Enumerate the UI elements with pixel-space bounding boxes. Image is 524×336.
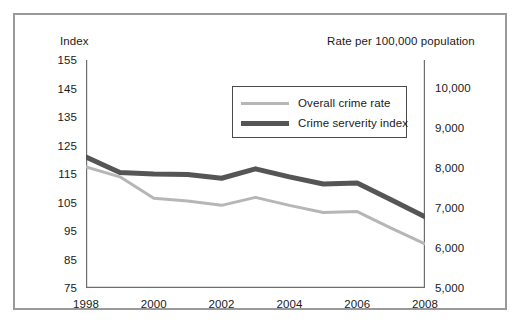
y2-tick-label: 9,000	[435, 122, 464, 134]
x-tick-label: 2004	[276, 298, 302, 310]
y-tick-label: 85	[64, 254, 77, 266]
legend-line-icon-overall-crime-rate	[241, 102, 289, 105]
x-tick-label: 1998	[73, 298, 99, 310]
series-line-overall-crime-rate	[86, 167, 425, 244]
y-tick-label: 145	[58, 83, 78, 95]
y2-tick-label: 10,000	[435, 82, 471, 94]
legend-entry-overall-crime-rate: Overall crime rate	[241, 95, 391, 111]
left-axis-title: Index	[60, 35, 89, 47]
chart-legend: Overall crime rate Crime serverity index	[232, 86, 407, 138]
x-tick-label: 2002	[209, 298, 235, 310]
y2-tick-label: 8,000	[435, 162, 464, 174]
x-tick-label: 2000	[141, 298, 167, 310]
legend-entry-crime-severity-index: Crime serverity index	[241, 115, 408, 131]
y-tick-label: 75	[64, 282, 77, 294]
y2-tick-label: 6,000	[435, 242, 464, 254]
x-tick-label: 2008	[412, 298, 438, 310]
y2-tick-label: 7,000	[435, 202, 464, 214]
y2-tick-label: 5,000	[435, 282, 464, 294]
y-tick-label: 155	[58, 54, 78, 66]
legend-label-overall-crime-rate: Overall crime rate	[298, 97, 391, 109]
y-tick-label: 95	[64, 225, 77, 237]
y-tick-label: 125	[58, 140, 78, 152]
legend-line-icon-crime-severity-index	[241, 121, 289, 126]
y-tick-label: 135	[58, 111, 78, 123]
x-tick-label: 2006	[344, 298, 370, 310]
y-tick-label: 115	[58, 168, 77, 180]
right-axis-title: Rate per 100,000 population	[327, 35, 475, 47]
chart-figure: Index Rate per 100,000 population 155145…	[0, 0, 524, 336]
y-tick-label: 105	[58, 197, 78, 209]
legend-label-crime-severity-index: Crime serverity index	[298, 117, 408, 129]
